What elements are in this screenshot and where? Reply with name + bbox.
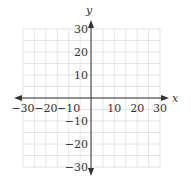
x-tick-label: 20 <box>130 102 144 115</box>
y-tick-label: −20 <box>65 138 88 151</box>
axes <box>14 20 169 176</box>
y-tick-label: −30 <box>65 161 88 174</box>
x-tick-label: 10 <box>107 102 121 115</box>
x-tick-labels: −30−20−10102030 <box>11 102 167 115</box>
y-axis-label: y <box>85 4 93 17</box>
y-tick-label: 10 <box>74 69 88 82</box>
x-tick-label: −20 <box>34 102 57 115</box>
y-tick-label: 30 <box>74 23 88 36</box>
y-tick-label: 20 <box>74 46 88 59</box>
x-axis-left-arrow-icon <box>14 95 22 101</box>
x-tick-label: 30 <box>153 102 167 115</box>
y-axis-up-arrow-icon <box>88 20 94 28</box>
x-tick-label: −10 <box>57 102 80 115</box>
coordinate-plane: −30−20−10102030 302010−10−20−30 x y <box>0 0 191 185</box>
x-tick-label: −30 <box>11 102 34 115</box>
x-axis-right-arrow-icon <box>161 95 169 101</box>
x-axis-label: x <box>172 92 179 105</box>
y-tick-label: −10 <box>65 115 88 128</box>
y-axis-down-arrow-icon <box>88 168 94 176</box>
